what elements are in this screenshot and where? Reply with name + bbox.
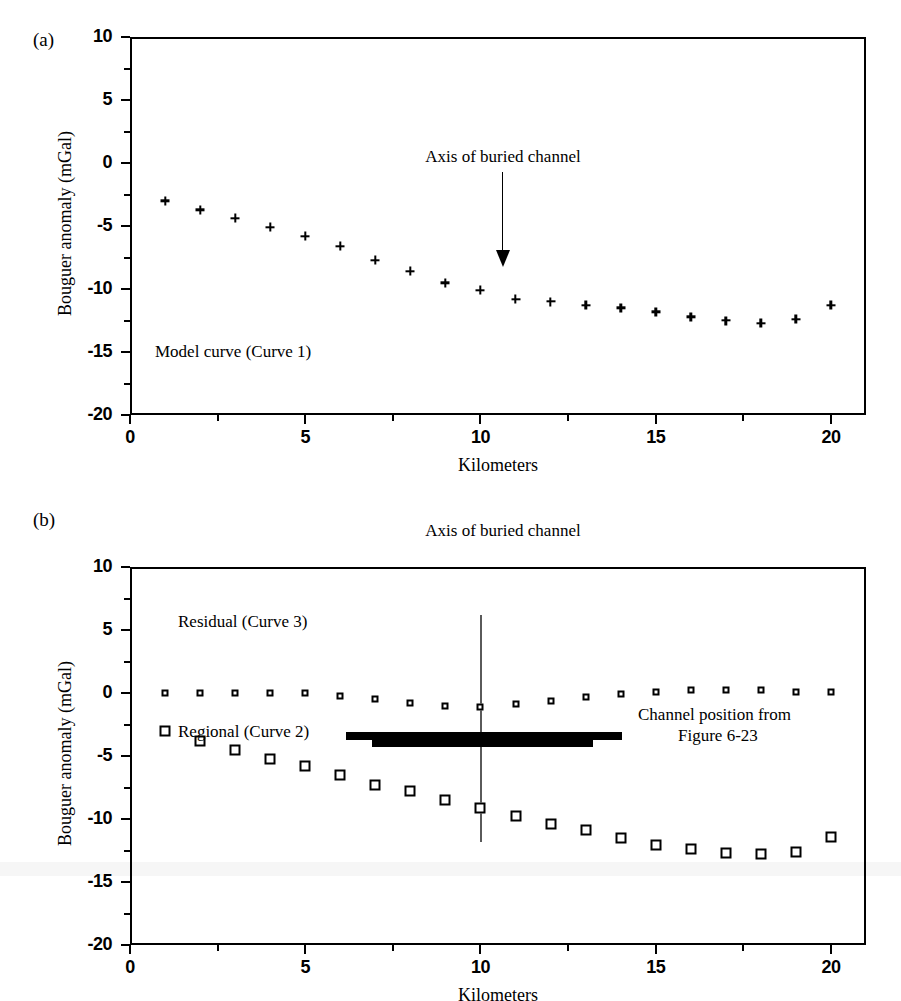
y-tick-label: -20 xyxy=(62,934,112,955)
data-point xyxy=(302,690,309,697)
data-point xyxy=(336,242,345,251)
y-tick-label: -5 xyxy=(62,215,112,236)
y-tick-label: 10 xyxy=(62,556,112,577)
data-point xyxy=(442,702,449,709)
annotation-axis-of-buried-channel-a: Axis of buried channel xyxy=(378,147,628,167)
y-tick-major xyxy=(121,629,130,631)
data-point xyxy=(372,696,379,703)
x-tick-label: 10 xyxy=(455,427,505,448)
x-tick-minor xyxy=(392,945,394,951)
annotation-axis-of-buried-channel-b: Axis of buried channel xyxy=(378,521,628,541)
y-tick-minor xyxy=(124,787,130,789)
data-point xyxy=(267,690,274,697)
data-point xyxy=(407,700,414,707)
annotation-arrow-head-icon-a xyxy=(496,250,510,267)
data-point xyxy=(825,831,836,842)
channel-position-bar-lower xyxy=(372,740,593,747)
x-tick-minor xyxy=(392,415,394,421)
data-point xyxy=(301,232,310,241)
y-tick-label: 5 xyxy=(62,89,112,110)
x-axis-title-b: Kilometers xyxy=(130,985,866,1001)
data-point xyxy=(826,301,835,310)
x-tick-label: 20 xyxy=(806,427,856,448)
data-point xyxy=(792,688,799,695)
data-point xyxy=(512,701,519,708)
y-tick-major xyxy=(121,566,130,568)
data-point xyxy=(335,769,346,780)
y-tick-major xyxy=(121,225,130,227)
annotation-arrow-line-a xyxy=(502,172,503,254)
y-tick-major xyxy=(121,692,130,694)
y-tick-major xyxy=(121,99,130,101)
y-tick-major xyxy=(121,755,130,757)
data-point xyxy=(232,690,239,697)
x-tick-label: 5 xyxy=(280,957,330,978)
x-tick-major xyxy=(304,945,306,954)
y-tick-label: -5 xyxy=(62,745,112,766)
data-point xyxy=(652,688,659,695)
data-point xyxy=(230,744,241,755)
y-tick-minor xyxy=(124,194,130,196)
x-tick-minor xyxy=(567,945,569,951)
panel-label-b: (b) xyxy=(33,509,55,531)
data-point xyxy=(756,319,765,328)
x-tick-label: 0 xyxy=(105,427,155,448)
data-point xyxy=(405,786,416,797)
data-point xyxy=(440,795,451,806)
x-tick-minor xyxy=(742,945,744,951)
y-tick-label: -15 xyxy=(62,871,112,892)
y-tick-label: -10 xyxy=(62,808,112,829)
data-point xyxy=(791,315,800,324)
data-point xyxy=(511,295,520,304)
y-tick-label: -15 xyxy=(62,341,112,362)
data-point xyxy=(616,303,625,312)
data-point xyxy=(547,697,554,704)
data-point xyxy=(687,687,694,694)
data-point xyxy=(722,687,729,694)
x-tick-label: 20 xyxy=(806,957,856,978)
y-tick-major xyxy=(121,351,130,353)
data-point xyxy=(651,307,660,316)
data-point xyxy=(582,693,589,700)
data-point xyxy=(300,761,311,772)
panel-label-a: (a) xyxy=(33,29,54,51)
x-tick-label: 5 xyxy=(280,427,330,448)
y-tick-minor xyxy=(124,68,130,70)
figure-container: (a) Bouguer anomaly (mGal) 1050-5-10-15-… xyxy=(0,0,901,1001)
data-point xyxy=(685,844,696,855)
data-point xyxy=(476,286,485,295)
data-point xyxy=(370,779,381,790)
y-tick-major xyxy=(121,881,130,883)
y-tick-label: 10 xyxy=(62,26,112,47)
x-tick-label: 15 xyxy=(631,957,681,978)
data-point xyxy=(827,688,834,695)
data-point xyxy=(615,832,626,843)
x-tick-minor xyxy=(217,415,219,421)
y-tick-label: 5 xyxy=(62,619,112,640)
data-point xyxy=(196,205,205,214)
y-tick-label: -20 xyxy=(62,404,112,425)
x-tick-major xyxy=(479,945,481,954)
data-point xyxy=(757,687,764,694)
data-point xyxy=(197,690,204,697)
y-tick-label: 0 xyxy=(62,682,112,703)
data-point xyxy=(161,196,170,205)
y-tick-label: -10 xyxy=(62,278,112,299)
y-tick-minor xyxy=(124,598,130,600)
x-tick-label: 15 xyxy=(631,427,681,448)
x-tick-minor xyxy=(742,415,744,421)
data-point xyxy=(545,819,556,830)
x-tick-major xyxy=(655,945,657,954)
y-tick-label: 0 xyxy=(62,152,112,173)
data-point xyxy=(580,825,591,836)
data-point xyxy=(510,811,521,822)
data-point xyxy=(406,267,415,276)
x-tick-major xyxy=(830,415,832,424)
data-point xyxy=(650,840,661,851)
data-point xyxy=(441,278,450,287)
x-tick-major xyxy=(129,415,131,424)
data-point xyxy=(266,223,275,232)
y-tick-minor xyxy=(124,320,130,322)
data-point xyxy=(581,301,590,310)
y-tick-major xyxy=(121,288,130,290)
